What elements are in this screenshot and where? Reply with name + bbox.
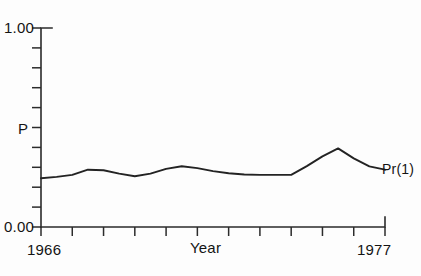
y-axis-max-label: 1.00 [4, 19, 34, 36]
y-axis-ticks [32, 28, 41, 227]
x-axis-line [41, 217, 385, 227]
y-axis-line [41, 28, 52, 227]
x-axis-title: Year [190, 239, 221, 256]
y-axis-min-label: 0.00 [4, 218, 34, 235]
chart-plot-area [0, 0, 421, 276]
series-annotation-pr1: Pr(1) [382, 161, 414, 177]
x-axis-max-label: 1977 [357, 241, 391, 258]
y-axis-title: P [18, 120, 28, 137]
x-axis-min-label: 1966 [27, 241, 61, 258]
chart-figure: 1.00 0.00 P 1966 1977 Year Pr(1) [0, 0, 421, 276]
data-series-line-pr1 [41, 148, 385, 178]
x-axis-ticks [41, 227, 385, 236]
